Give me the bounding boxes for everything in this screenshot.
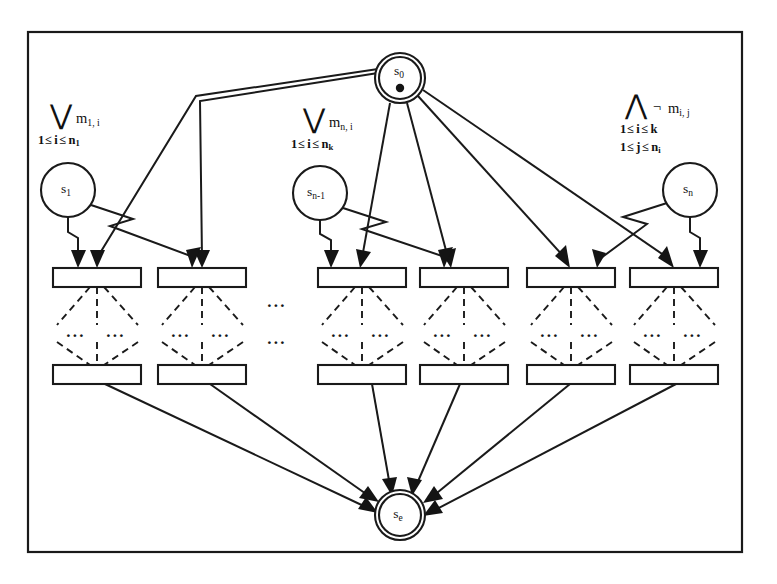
- quant-right-range-line-1: 1≤i≤k: [620, 122, 657, 136]
- quant-middle-range-line-1: 1≤i≤nk: [291, 137, 333, 152]
- node-se[interactable]: se: [375, 490, 425, 540]
- node-s1[interactable]: s1: [41, 163, 95, 217]
- ellipsis-box-fan-1-left: ...: [66, 322, 85, 341]
- ellipsis-box-fan-3-left: ...: [331, 322, 350, 341]
- ellipsis-box-fan-6-right: ...: [683, 322, 702, 341]
- ellipsis-box-fan-1-right: ...: [106, 322, 125, 341]
- process-box-top-6: [630, 268, 718, 287]
- big-or-icon-middle: ⋁: [302, 104, 326, 134]
- ellipsis-column-gap-upper: ...: [267, 292, 286, 311]
- process-box-top-5: [527, 268, 615, 287]
- ellipsis-box-fan-4-right: ...: [473, 322, 492, 341]
- process-box-bottom-4: [420, 365, 508, 384]
- process-box-top-4: [420, 268, 508, 287]
- ellipsis-box-fan-5-left: ...: [540, 322, 559, 341]
- node-s0[interactable]: s0: [375, 53, 425, 103]
- process-box-top-1: [53, 268, 141, 287]
- process-box-bottom-1: [53, 365, 141, 384]
- ellipsis-box-fan-2-left: ...: [171, 322, 190, 341]
- ellipsis-box-fan-4-left: ...: [433, 322, 452, 341]
- big-and-icon-right: ⋀: [624, 90, 648, 120]
- ellipsis-box-fan-2-right: ...: [211, 322, 230, 341]
- big-or-icon-left: ⋁: [49, 100, 73, 130]
- process-box-bottom-3: [318, 365, 406, 384]
- initial-state-dot-icon: [396, 84, 404, 92]
- diagram-canvas: s0 s1 sn-1 sn se ⋁ m1, i 1≤i≤n1: [0, 0, 777, 584]
- ellipsis-box-fan-6-left: ...: [643, 322, 662, 341]
- quant-right-negation: ¬: [653, 98, 661, 114]
- automaton-diagram-svg: s0 s1 sn-1 sn se ⋁ m1, i 1≤i≤n1: [0, 0, 777, 584]
- process-box-top-2: [158, 268, 246, 287]
- ellipsis-box-fan-5-right: ...: [580, 322, 599, 341]
- node-sn-1[interactable]: sn-1: [293, 166, 347, 220]
- node-sn[interactable]: sn: [663, 163, 717, 217]
- process-box-top-3: [318, 268, 406, 287]
- process-box-bottom-6: [630, 365, 718, 384]
- ellipsis-column-gap-lower: ...: [267, 329, 286, 348]
- process-box-bottom-2: [158, 365, 246, 384]
- ellipsis-box-fan-3-right: ...: [371, 322, 390, 341]
- process-box-bottom-5: [527, 365, 615, 384]
